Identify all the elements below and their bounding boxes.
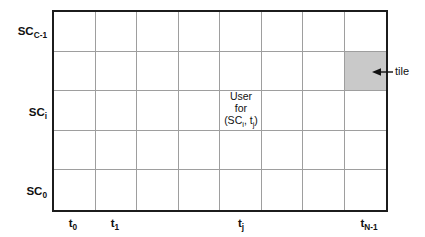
grid-cell xyxy=(54,52,96,92)
grid-cell xyxy=(345,170,387,210)
grid-cell xyxy=(179,12,221,52)
row-label-sc-i: SCi xyxy=(0,105,47,124)
grid-cell xyxy=(96,52,138,92)
grid-cell xyxy=(303,52,345,92)
grid-cell xyxy=(179,170,221,210)
grid-cell xyxy=(179,91,221,131)
col-label-subscript: 1 xyxy=(115,223,120,232)
col-label-subscript: N-1 xyxy=(364,223,377,232)
grid-cell xyxy=(137,131,179,171)
row-label-subscript: i xyxy=(45,112,47,121)
grid-cell xyxy=(137,12,179,52)
col-label-subscript: 0 xyxy=(73,223,78,232)
grid-cell xyxy=(220,12,262,52)
cell-annotation: User for (SCi, tj) xyxy=(220,91,262,131)
col-label-subscript: j xyxy=(242,223,244,232)
grid-cell xyxy=(220,170,262,210)
grid-cell xyxy=(220,131,262,171)
grid-cell xyxy=(303,170,345,210)
grid-cell xyxy=(220,52,262,92)
grid-cell xyxy=(96,91,138,131)
col-label-tj: tj xyxy=(211,216,271,235)
tile-arrow-icon xyxy=(372,66,393,78)
grid-cell xyxy=(262,52,304,92)
cell-annotation-line3: (SCi, tj) xyxy=(224,114,258,131)
grid-cell xyxy=(54,170,96,210)
row-label-sc-0: SC0 xyxy=(0,184,47,203)
cell-annotation-line1: User xyxy=(230,90,252,102)
grid-cell xyxy=(345,91,387,131)
row-label-sc-c-1: SCC-1 xyxy=(0,24,47,43)
grid-cell xyxy=(179,131,221,171)
grid-cell xyxy=(262,131,304,171)
tile-label: tile xyxy=(395,65,409,78)
row-label-base: SC xyxy=(29,106,45,118)
grid-cell xyxy=(137,91,179,131)
grid-cell xyxy=(54,12,96,52)
grid-cell xyxy=(303,12,345,52)
grid-cell xyxy=(137,52,179,92)
grid-cell xyxy=(303,91,345,131)
col-label-tn-1: tN-1 xyxy=(339,216,399,235)
grid-cell xyxy=(54,131,96,171)
row-label-subscript: 0 xyxy=(42,191,47,200)
col-label-t1: t1 xyxy=(85,216,145,235)
grid-cell xyxy=(96,170,138,210)
grid-cell xyxy=(179,52,221,92)
grid-cell xyxy=(137,170,179,210)
grid-cell xyxy=(345,131,387,171)
grid-cell xyxy=(303,131,345,171)
grid-cell xyxy=(345,12,387,52)
grid-cell xyxy=(262,12,304,52)
grid-cell xyxy=(262,170,304,210)
grid-cell xyxy=(96,12,138,52)
row-label-subscript: C-1 xyxy=(34,31,47,40)
row-label-base: SC xyxy=(26,185,42,197)
row-label-base: SC xyxy=(18,25,34,37)
grid-cell xyxy=(54,91,96,131)
figure: SCC-1 SCi SC0 t0 t1 tj tN-1 User for (SC… xyxy=(0,0,425,237)
grid-cell xyxy=(262,91,304,131)
grid-cell xyxy=(96,131,138,171)
cell-annotation-line2: for xyxy=(235,102,247,114)
